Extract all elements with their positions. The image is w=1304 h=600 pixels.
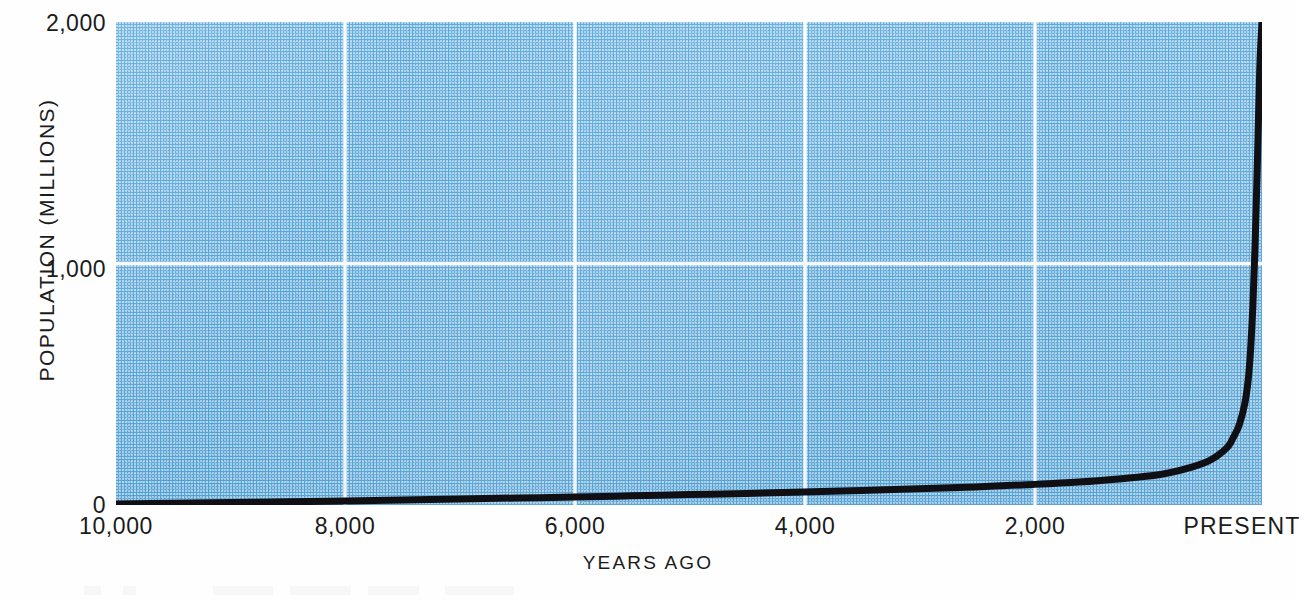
scan-edge-artifact xyxy=(84,586,514,595)
population-curve xyxy=(116,22,1262,505)
x-axis-tick-label-10000: 10,000 xyxy=(26,513,206,540)
x-axis-tick-label-present: PRESENT xyxy=(1152,513,1304,540)
x-axis-tick-label-6000: 6,000 xyxy=(485,513,665,540)
y-axis-title: POPULATION (MILLIONS) xyxy=(35,10,59,470)
x-axis-tick-label-4000: 4,000 xyxy=(715,513,895,540)
x-axis-tick-label-8000: 8,000 xyxy=(255,513,435,540)
plot-area xyxy=(116,22,1262,505)
x-axis-tick-label-2000: 2,000 xyxy=(945,513,1125,540)
x-axis-title: YEARS AGO xyxy=(0,552,1296,574)
population-curve-path xyxy=(116,22,1262,504)
